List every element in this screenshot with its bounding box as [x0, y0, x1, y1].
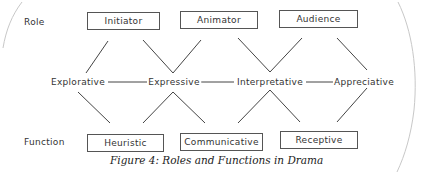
role-label: Animator	[197, 15, 241, 25]
mode-interpretative: Interpretative	[236, 77, 304, 87]
connector-v-interpretative	[238, 38, 302, 72]
page-edge-right	[397, 2, 415, 172]
function-box-communicative: Communicative	[180, 133, 263, 151]
role-label: Initiator	[105, 16, 143, 26]
function-box-heuristic: Heuristic	[87, 134, 164, 152]
function-label: Heuristic	[104, 138, 147, 148]
function-label: Receptive	[295, 135, 342, 145]
mode-explorative: Explorative	[50, 77, 106, 87]
role-box-animator: Animator	[180, 11, 258, 29]
row-label-role: Role	[24, 17, 45, 27]
connector-audience-appreciative	[337, 38, 367, 70]
function-box-receptive: Receptive	[280, 131, 358, 149]
mode-appreciative: Appreciative	[333, 77, 395, 87]
connector-explorative-heuristic	[78, 92, 110, 123]
page-edge-left	[3, 2, 22, 48]
row-label-function: Function	[24, 137, 65, 147]
connector-lambda-interpretative	[238, 90, 300, 123]
role-label: Audience	[296, 14, 340, 24]
mode-expressive: Expressive	[147, 77, 201, 87]
role-box-initiator: Initiator	[87, 12, 160, 30]
role-box-audience: Audience	[279, 10, 358, 28]
connector-lambda-expressive	[143, 92, 205, 123]
figure-caption: Figure 4: Roles and Functions in Drama	[110, 154, 320, 166]
connector-appreciative-receptive	[337, 88, 367, 122]
connector-v-expressive	[143, 40, 201, 73]
connector-initiator-explorative	[86, 41, 108, 73]
function-label: Communicative	[184, 137, 259, 147]
